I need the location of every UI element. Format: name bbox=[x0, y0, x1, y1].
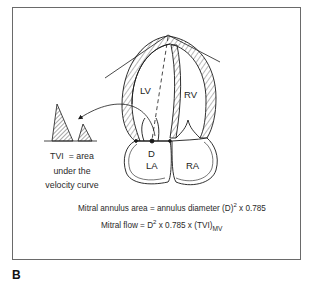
formula-flow-subscript: MV bbox=[212, 225, 222, 232]
formula-area-suffix: x 0.785 bbox=[237, 204, 266, 213]
tvi-caption-line3: velocity curve bbox=[36, 178, 108, 193]
tvi-caption-line1: TVI = area bbox=[36, 149, 108, 164]
formula-mitral-flow: Mitral flow = D2 x 0.785 x (TVI)MV bbox=[101, 219, 222, 232]
panel-letter: B bbox=[12, 268, 21, 282]
formula-flow-middle: x 0.785 x (TVI) bbox=[156, 221, 212, 230]
tvi-caption: TVI = area under the velocity curve bbox=[36, 149, 108, 193]
label-la: LA bbox=[146, 161, 158, 171]
formula-flow-prefix: Mitral flow = D bbox=[101, 221, 153, 230]
tvi-caption-line2: under the bbox=[36, 164, 108, 179]
hatched-doppler-waveform-icon bbox=[44, 104, 97, 141]
heart-diagram bbox=[0, 0, 314, 282]
label-lv: LV bbox=[140, 86, 151, 96]
label-annulus-d: D bbox=[148, 149, 155, 159]
label-rv: RV bbox=[184, 90, 197, 100]
label-ra: RA bbox=[186, 161, 199, 171]
formula-area-prefix: Mitral annulus area = annulus diameter (… bbox=[78, 204, 233, 213]
formula-annulus-area: Mitral annulus area = annulus diameter (… bbox=[78, 202, 266, 213]
apical-four-chamber-heart-icon bbox=[122, 36, 217, 185]
